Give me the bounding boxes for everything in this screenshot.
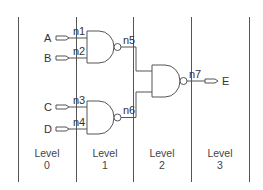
level-label-0-num: 0	[44, 159, 50, 171]
level-label-3-word: Level	[207, 147, 232, 159]
inversion-bubble-g1	[114, 44, 121, 51]
nand-gate-g2-icon	[87, 101, 114, 134]
net-label-n7: n7	[189, 68, 201, 80]
output-port-e-icon	[205, 79, 218, 83]
level-label-2-num: 2	[159, 159, 165, 171]
net-label-n5: n5	[123, 34, 135, 46]
input-port-c-icon	[56, 105, 69, 109]
circuit-diagram: A B C D E n1 n2 n3 n4 n5 n6 n7 Level 0 L…	[0, 0, 263, 190]
input-label-b: B	[44, 52, 51, 64]
level-label-1-word: Level	[92, 147, 117, 159]
net-label-n4: n4	[73, 116, 85, 128]
wire-n5	[121, 47, 152, 71]
level-label-1-num: 1	[102, 159, 108, 171]
input-port-b-icon	[56, 56, 69, 60]
net-label-n6: n6	[123, 104, 135, 116]
input-label-c: C	[44, 101, 52, 113]
input-label-a: A	[44, 32, 52, 44]
level-label-3-num: 3	[217, 159, 223, 171]
net-label-n2: n2	[73, 45, 85, 57]
input-port-a-icon	[56, 36, 69, 40]
level-label-0-word: Level	[34, 147, 59, 159]
input-port-d-icon	[56, 127, 69, 131]
output-label-e: E	[222, 75, 229, 87]
input-label-d: D	[44, 123, 52, 135]
nand-gate-g3-icon	[152, 65, 180, 97]
net-label-n1: n1	[73, 25, 85, 37]
level-label-2-word: Level	[149, 147, 174, 159]
nand-gate-g1-icon	[87, 31, 114, 63]
net-label-n3: n3	[73, 94, 85, 106]
inversion-bubble-g2	[114, 114, 121, 121]
inversion-bubble-g3	[180, 78, 187, 85]
